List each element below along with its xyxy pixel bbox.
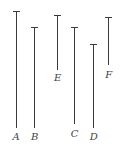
segment-line <box>57 15 58 70</box>
segment-line <box>16 11 17 128</box>
segment-label: C <box>69 129 81 139</box>
segment-label: D <box>88 132 100 142</box>
segment-label: F <box>103 70 115 80</box>
segment-label: B <box>29 132 41 142</box>
segment-label: E <box>52 73 64 83</box>
segment-line <box>93 44 94 128</box>
segment-line <box>74 27 75 124</box>
segment-label: A <box>10 132 22 142</box>
segment-line <box>108 17 109 65</box>
segment-line <box>34 27 35 128</box>
